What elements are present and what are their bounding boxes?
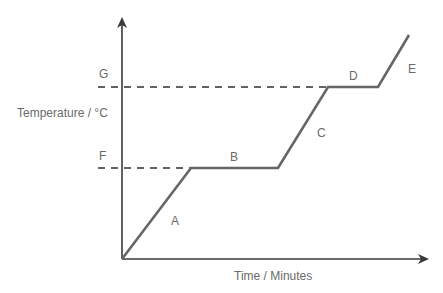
y-axis-label: Temperature / °C [17, 106, 108, 120]
segment-label-c: C [317, 126, 326, 140]
segment-label-a: A [171, 214, 179, 228]
segment-label-e: E [408, 62, 416, 76]
x-axis-label: Time / Minutes [234, 269, 312, 283]
heating-curve-line [122, 35, 409, 259]
reference-label-f: F [99, 149, 106, 163]
segment-label-b: B [230, 150, 238, 164]
reference-label-g: G [99, 67, 108, 81]
segment-label-d: D [349, 69, 358, 83]
heating-curve-diagram: Temperature / °C Time / Minutes G F A B … [0, 0, 443, 293]
